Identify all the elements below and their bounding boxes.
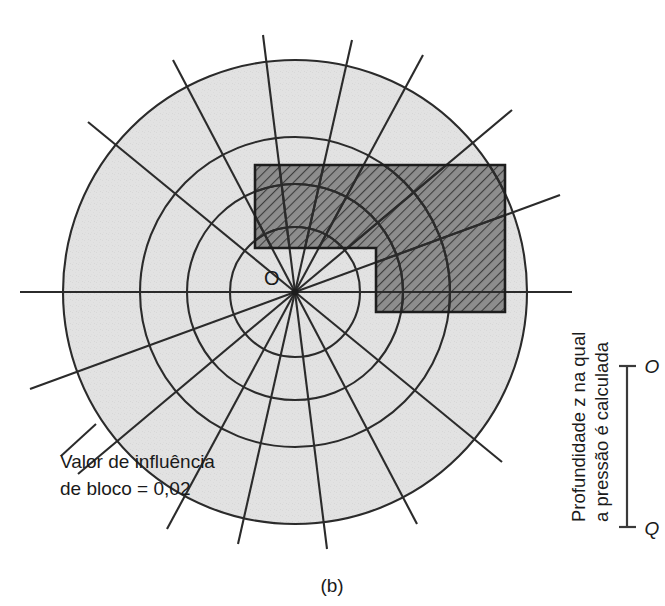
- legend-line-2: de bloco = 0,02: [60, 478, 190, 499]
- depth-scale: O Q Profundidade z na qual a pressão é c…: [568, 332, 660, 539]
- legend-line-1: Valor de influência: [60, 451, 215, 472]
- depth-scale-label-line-2: a pressão é calculada: [591, 341, 612, 522]
- depth-scale-label-line-1: Profundidade z na qual: [568, 332, 589, 522]
- center-label: O: [264, 267, 280, 289]
- depth-scale-top-marker: O: [645, 356, 660, 377]
- figure-canvas: O Valor de influência de bloco = 0,02 (b…: [0, 0, 665, 606]
- newmark-influence-chart: O Valor de influência de bloco = 0,02 (b…: [0, 0, 665, 606]
- depth-scale-bottom-marker: Q: [645, 518, 660, 539]
- center-point: [291, 288, 298, 295]
- figure-caption: (b): [320, 575, 343, 596]
